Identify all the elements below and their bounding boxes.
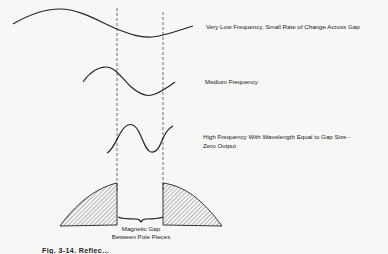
magnetic-gap-label: Magnetic Gap Between Pole Pieces [101,225,181,241]
diagram-canvas [0,0,388,254]
gap-brace [118,217,163,222]
very-low-frequency-wave [13,9,193,37]
magnetic-gap-label-line2: Between Pole Pieces [101,233,181,241]
medium-frequency-label: Medium Frequency [205,78,258,85]
left-pole-piece [60,183,117,226]
magnetic-gap-label-line1: Magnetic Gap [101,225,181,233]
very-low-frequency-label: Very Low Frequency, Small Rate of Change… [206,23,360,30]
right-pole-piece [163,183,222,226]
medium-frequency-wave [83,67,175,96]
high-frequency-label: High Frequency With Wavelength Equal to … [203,133,350,140]
figure-caption: Fig. 3-14. Reflec... [42,247,109,254]
high-frequency-label-line2: Zero Output [203,142,236,149]
